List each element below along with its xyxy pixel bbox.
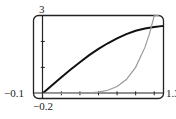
x-min-label: −0.1	[4, 88, 24, 99]
y-min-label: −0.2	[33, 101, 53, 112]
chart	[0, 0, 176, 119]
dark-curve	[43, 26, 164, 93]
x-max-label: 1.3	[166, 88, 176, 99]
y-max-label: 3	[39, 4, 45, 15]
gray-curve	[43, 16, 159, 94]
